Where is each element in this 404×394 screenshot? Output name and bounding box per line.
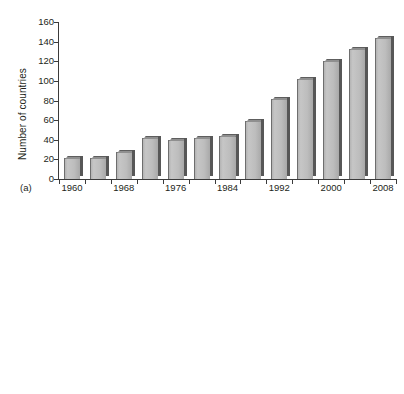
bar [168, 140, 184, 179]
x-tick-label: 1976 [165, 182, 186, 193]
y-tick-label: 140 [28, 37, 54, 47]
bar [245, 121, 261, 179]
bar-slot [111, 22, 137, 179]
x-tick-slot [85, 182, 111, 196]
bar-slot [318, 22, 344, 179]
x-tick-slot: 1984 [215, 182, 241, 196]
y-tick-label: 120 [28, 57, 54, 67]
y-tick-label: 0 [28, 174, 54, 184]
y-axis-tick [54, 61, 58, 62]
plot-area-a [59, 22, 396, 179]
y-axis-tick [54, 120, 58, 121]
figure-two-bar-charts: Number of countries (a) 0204060801001201… [0, 0, 404, 394]
bar [116, 152, 132, 179]
y-axis-tick [54, 42, 58, 43]
y-axis-line [58, 22, 59, 179]
y-tick-label: 100 [28, 76, 54, 86]
bar [349, 49, 365, 180]
x-tick-labels-a: 1960 1968 1976 1984 1992 2000 2008 [59, 182, 396, 196]
x-axis-line [58, 179, 397, 180]
x-axis-tick [396, 180, 397, 184]
x-tick-slot [344, 182, 370, 196]
bar [64, 158, 80, 179]
x-tick-slot [137, 182, 163, 196]
x-tick-label: 2000 [321, 182, 342, 193]
y-tick-label: 80 [28, 96, 54, 106]
y-tick-label: 40 [28, 135, 54, 145]
x-tick-slot: 1968 [111, 182, 137, 196]
y-axis-tick [54, 179, 58, 180]
bar-slot [370, 22, 396, 179]
y-axis-tick [54, 159, 58, 160]
x-tick-label: 1968 [113, 182, 134, 193]
x-tick-slot: 1976 [163, 182, 189, 196]
x-tick-slot [189, 182, 215, 196]
chart-panel-b: Number of Countries (b) 0510152025303540… [0, 200, 404, 394]
bar-slot [240, 22, 266, 179]
x-tick-slot: 1960 [59, 182, 85, 196]
bar [375, 38, 391, 179]
bar-slot [344, 22, 370, 179]
x-tick-label: 1992 [269, 182, 290, 193]
y-axis-title-a: Number of countries [17, 68, 28, 160]
bar-slot [85, 22, 111, 179]
bar-slot [292, 22, 318, 179]
x-tick-slot [292, 182, 318, 196]
bar [271, 99, 287, 179]
x-tick-label: 2008 [372, 182, 393, 193]
y-axis-tick [54, 81, 58, 82]
y-tick-label: 60 [28, 115, 54, 125]
bar-slot [215, 22, 241, 179]
chart-panel-a: Number of countries (a) 0204060801001201… [0, 0, 404, 200]
bar-slot [189, 22, 215, 179]
bar [219, 136, 235, 179]
y-axis-tick [54, 22, 58, 23]
x-tick-slot: 2000 [318, 182, 344, 196]
x-tick-label: 1960 [61, 182, 82, 193]
x-tick-label: 1984 [217, 182, 238, 193]
bar-slot [137, 22, 163, 179]
y-tick-labels-a: 020406080100120140160 [28, 0, 54, 200]
bar-slot [266, 22, 292, 179]
bar [297, 79, 313, 179]
bar [323, 61, 339, 179]
bar [194, 138, 210, 179]
bar-slot [163, 22, 189, 179]
bar [142, 138, 158, 179]
x-tick-slot: 1992 [266, 182, 292, 196]
x-tick-slot [240, 182, 266, 196]
y-tick-label: 160 [28, 17, 54, 27]
bar-series-a [59, 22, 396, 179]
bar-slot [59, 22, 85, 179]
y-tick-label: 20 [28, 155, 54, 165]
y-axis-tick [54, 101, 58, 102]
x-tick-slot: 2008 [370, 182, 396, 196]
y-axis-tick [54, 140, 58, 141]
bar [90, 158, 106, 179]
